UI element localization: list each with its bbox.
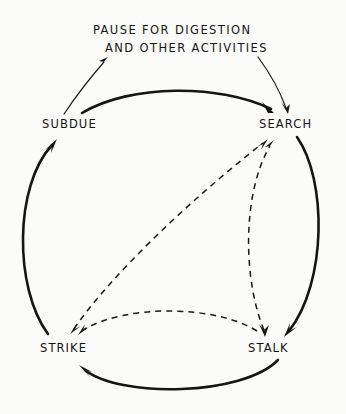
edge-search-to-stalk-line <box>289 137 319 331</box>
edge-stalk-to-search-arrowhead-at-stalk <box>259 324 269 337</box>
predatory-cycle-diagram: PAUSE FOR DIGESTION AND OTHER ACTIVITIES… <box>0 0 346 414</box>
annotation-leader-search-arrowhead <box>281 102 290 114</box>
edge-stalk-to-strike-dashed <box>78 311 257 335</box>
edge-strike-to-search-line <box>74 143 263 329</box>
node-label-strike: STRIKE <box>40 341 87 355</box>
edge-stalk-to-search <box>249 140 274 337</box>
node-label-search: SEARCH <box>259 117 312 131</box>
edge-stalk-to-strike-line <box>85 360 278 389</box>
node-label-stalk: STALK <box>248 341 289 355</box>
edge-strike-to-subdue <box>23 139 57 334</box>
edge-subdue-to-search <box>82 91 274 113</box>
node-label-subdue: SUBDUE <box>42 117 97 131</box>
edge-stalk-to-strike <box>79 360 278 389</box>
edge-stalk-to-strike-arrowhead <box>79 365 92 377</box>
edge-strike-to-subdue-line <box>23 145 52 334</box>
edge-search-to-stalk <box>284 137 319 337</box>
annotation-line-2: AND OTHER ACTIVITIES <box>105 41 268 55</box>
edge-stalk-to-search-arrowhead-at-search <box>265 140 274 152</box>
annotation-leader-search-line <box>258 57 286 108</box>
edge-strike-to-search-arrowhead-at-strike <box>70 323 81 334</box>
annotation-leader-subdue <box>64 57 108 114</box>
edge-strike-to-search <box>70 139 268 334</box>
edge-strike-to-search-arrowhead-at-search <box>257 139 268 150</box>
annotation-line-1: PAUSE FOR DIGESTION <box>93 23 251 37</box>
edge-subdue-to-search-line <box>82 91 271 113</box>
edge-subdue-to-search-arrowhead <box>261 102 274 113</box>
edge-stalk-to-search-line <box>249 146 270 330</box>
edge-stalk-to-strike-dashed-line <box>83 311 257 331</box>
